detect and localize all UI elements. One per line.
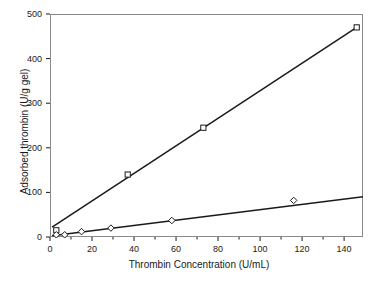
x-axis-tick-label: 120 xyxy=(295,244,310,254)
x-axis-tick-label: 100 xyxy=(253,244,268,254)
x-axis-title: Thrombin Concentration (U/mL) xyxy=(0,259,372,270)
x-axis-tick-label: 20 xyxy=(87,244,97,254)
y-axis-title: Adsorbed thrombin (U/g gel) xyxy=(19,42,30,222)
x-axis-tick-label: 140 xyxy=(337,244,352,254)
y-axis-tick-label: 500 xyxy=(8,9,42,19)
x-axis-tick-label: 80 xyxy=(213,244,223,254)
x-axis-tick-label: 0 xyxy=(47,244,52,254)
figure-root: 0100200300400500 020406080100120140 Adso… xyxy=(0,0,372,281)
plot-frame xyxy=(50,14,363,237)
x-axis-tick-label: 60 xyxy=(171,244,181,254)
y-axis-tick-label: 0 xyxy=(8,232,42,242)
x-axis-tick-label: 40 xyxy=(129,244,139,254)
